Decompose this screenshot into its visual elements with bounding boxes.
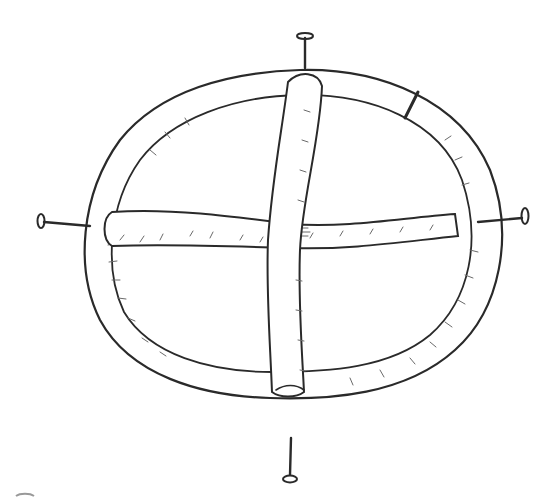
nail-bottom xyxy=(283,438,297,483)
nail-right xyxy=(478,208,529,224)
paper-mark xyxy=(16,494,34,496)
nail-left xyxy=(38,214,91,228)
ring-seam xyxy=(405,92,418,118)
sketch-canvas xyxy=(0,0,557,503)
nail-top xyxy=(297,33,313,68)
